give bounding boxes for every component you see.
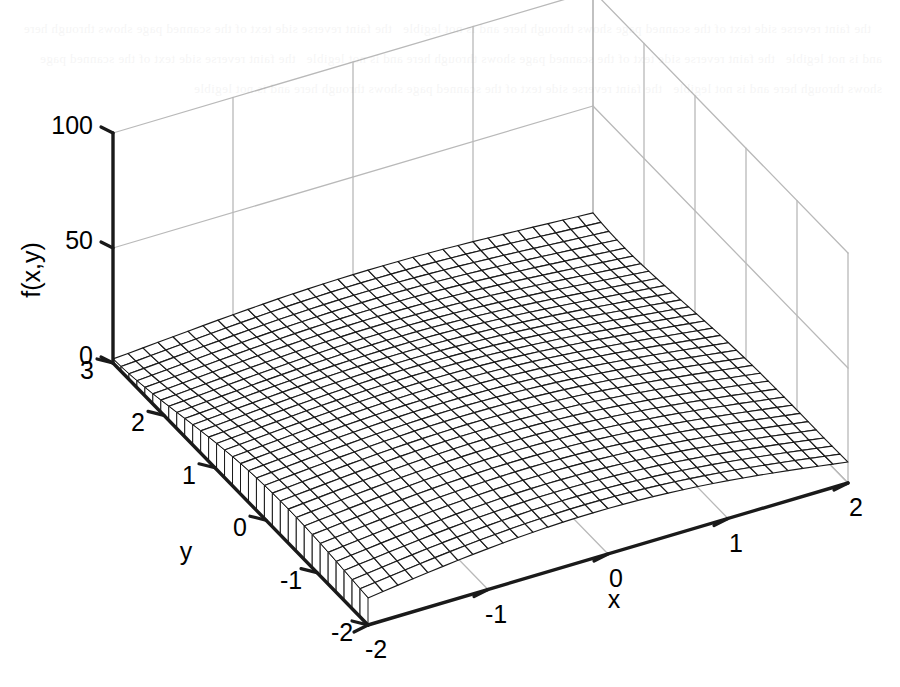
y-tick-label: -1 [280, 566, 302, 594]
x-axis-label: x [608, 585, 621, 613]
x-tick-label: -1 [485, 600, 507, 628]
surface-mesh [113, 213, 848, 625]
y-tick-label: 0 [233, 513, 247, 541]
x-tick-label: -2 [365, 635, 387, 663]
x-tick-label: 2 [849, 493, 863, 521]
z-tick-label: 50 [65, 226, 93, 254]
y-tick-label: 1 [182, 461, 196, 489]
surface-plot-figure: 0501003210-1-2-2-1012f(x,y)yx [0, 0, 900, 687]
y-axis-label: y [180, 537, 193, 565]
z-tick-label: 100 [51, 111, 93, 139]
y-tick-label: 3 [80, 356, 94, 384]
x-tick-label: 1 [729, 529, 743, 557]
y-tick-label: -2 [331, 618, 353, 646]
z-axis-label: f(x,y) [17, 242, 45, 298]
y-tick-label: 2 [131, 408, 145, 436]
